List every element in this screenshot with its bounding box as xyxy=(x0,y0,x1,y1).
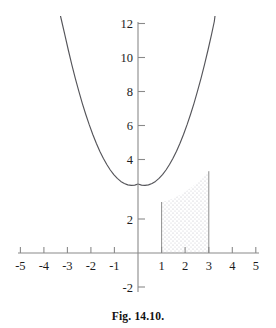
x-tick-label--5: -5 xyxy=(15,259,25,273)
x-tick-label--3: -3 xyxy=(62,259,72,273)
shaded-area-under-curve xyxy=(162,171,209,253)
x-tick-label-2: 2 xyxy=(182,259,188,273)
figure-container: -5 -4 -3 -2 -1 1 2 3 4 5 12 10 8 6 4 2 -… xyxy=(0,0,276,328)
y-tick-label-10: 10 xyxy=(121,51,134,65)
y-tick-label-2: 2 xyxy=(127,213,133,227)
x-tick-label-4: 4 xyxy=(229,259,236,273)
parabola-plot: -5 -4 -3 -2 -1 1 2 3 4 5 12 10 8 6 4 2 -… xyxy=(0,0,276,328)
x-tick-label--2: -2 xyxy=(86,259,96,273)
y-tick-label-12: 12 xyxy=(121,17,134,31)
x-tick-label-1: 1 xyxy=(158,259,164,273)
y-tick-label--2: -2 xyxy=(123,281,133,295)
x-tick-label-5: 5 xyxy=(253,259,259,273)
y-tick-label-6: 6 xyxy=(127,119,133,133)
x-tick-label-3: 3 xyxy=(206,259,212,273)
y-tick-label-8: 8 xyxy=(127,85,133,99)
y-axis-ticks xyxy=(138,24,145,288)
x-tick-label--4: -4 xyxy=(39,259,50,273)
figure-caption: Fig. 14.10. xyxy=(0,310,276,322)
x-tick-label--1: -1 xyxy=(109,259,119,273)
y-tick-label-4: 4 xyxy=(127,153,134,167)
